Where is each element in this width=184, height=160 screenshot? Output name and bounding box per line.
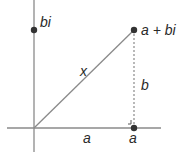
- horizontal-leg-label: a: [83, 130, 91, 146]
- hypotenuse-line: [34, 30, 134, 128]
- hypotenuse-label: x: [79, 63, 88, 79]
- real-point-label: a: [129, 130, 137, 146]
- imaginary-point: [31, 27, 37, 33]
- imag-point-label: bi: [40, 14, 52, 30]
- vertical-leg-label: b: [141, 77, 149, 93]
- complex-point-label: a + bi: [141, 22, 177, 38]
- right-angle-mark: [128, 120, 131, 124]
- complex-plane-diagram: bi a + bi x b a a: [0, 0, 184, 160]
- complex-point: [131, 27, 137, 33]
